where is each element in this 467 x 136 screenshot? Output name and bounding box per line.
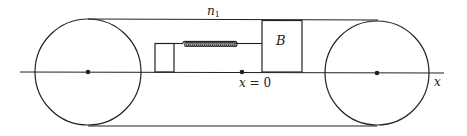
axis-label: x xyxy=(434,75,441,89)
belt-speed-label: n1 xyxy=(207,4,220,19)
block-label: B xyxy=(275,33,286,48)
conveyor-spring-diagram: n1 B x = 0 x xyxy=(0,0,467,136)
origin-label: x = 0 xyxy=(239,76,271,90)
origin-point xyxy=(240,70,245,75)
spring xyxy=(174,41,262,46)
conveyor-belt-top xyxy=(88,19,377,20)
wall-support xyxy=(155,44,174,73)
x-axis xyxy=(20,72,444,73)
